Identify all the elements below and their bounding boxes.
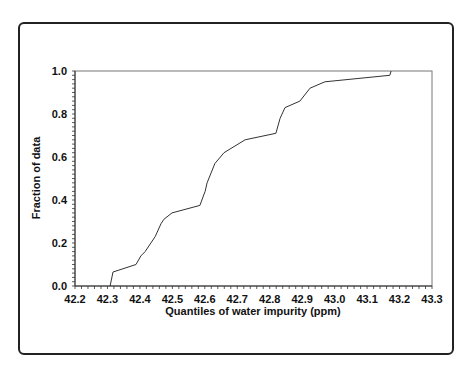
x-tick-label: 43.3 (421, 293, 442, 305)
y-tick-label: 0.0 (52, 280, 67, 292)
x-tick-label: 42.5 (162, 293, 183, 305)
x-tick-label: 42.7 (227, 293, 248, 305)
plot-area: 0.00.20.40.60.81.042.242.342.442.542.642… (52, 65, 443, 305)
x-tick-label: 42.4 (129, 293, 151, 305)
x-tick-label: 42.9 (291, 293, 312, 305)
x-tick-label: 42.8 (259, 293, 280, 305)
y-tick-label: 0.8 (52, 108, 67, 120)
x-axis-label: Quantiles of water impurity (ppm) (165, 305, 341, 317)
y-axis-label: Fraction of data (30, 136, 42, 219)
y-tick-label: 0.2 (52, 237, 67, 249)
x-tick-label: 43.0 (324, 293, 345, 305)
x-tick-label: 42.3 (97, 293, 118, 305)
y-tick-label: 0.4 (52, 194, 68, 206)
y-tick-label: 0.6 (52, 151, 67, 163)
x-tick-label: 42.6 (194, 293, 215, 305)
cdf-line (110, 71, 391, 286)
y-tick-label: 1.0 (52, 65, 67, 77)
x-tick-label: 42.2 (64, 293, 85, 305)
x-tick-label: 43.2 (389, 293, 410, 305)
x-tick-label: 43.1 (356, 293, 377, 305)
plot-border (75, 71, 432, 286)
cdf-chart: 0.00.20.40.60.81.042.242.342.442.542.642… (0, 0, 473, 381)
